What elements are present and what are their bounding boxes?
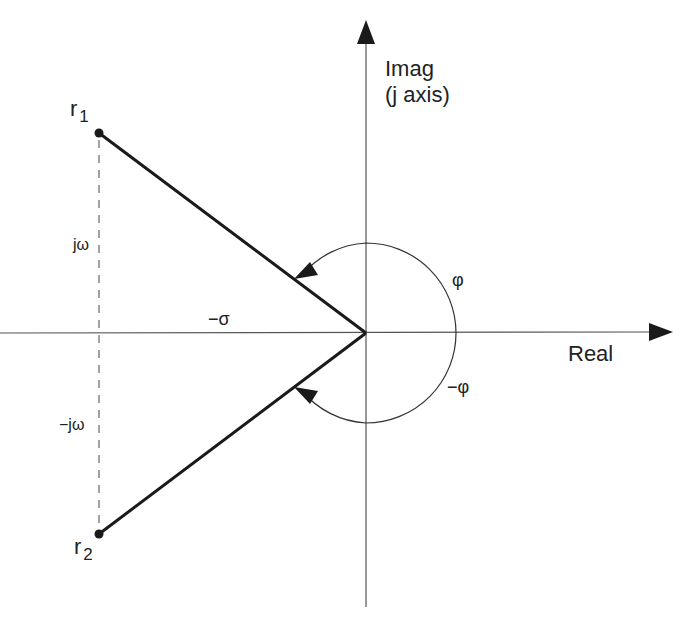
neg-phi-arc-arrow-icon [294,387,318,404]
phi-arc [302,243,456,333]
imag-axis-arrow-icon [357,20,375,44]
neg-phi-label: −φ [447,378,469,396]
r2-label-base: r [74,534,81,559]
j-omega-label: jω [73,237,89,253]
neg-sigma-label: −σ [208,310,230,328]
ray-to-r1 [99,133,366,333]
phi-arc-arrow-icon [294,262,318,279]
imag-axis-sublabel: (j axis) [385,84,450,106]
r2-label: r2 [74,536,93,563]
neg-phi-arc [302,333,456,423]
r2-label-subscript: 2 [83,545,92,564]
r1-label-base: r [70,96,77,121]
imag-axis-label: Imag [385,58,434,80]
r1-point [95,129,104,138]
real-axis-arrow-icon [649,323,673,341]
neg-j-omega-label: −jω [59,417,84,433]
r1-label-subscript: 1 [79,107,88,126]
r2-point [95,530,104,539]
ray-to-r2 [99,333,366,534]
real-axis-label: Real [568,343,613,365]
real-axis [0,332,652,333]
phi-label: φ [452,271,464,289]
r1-label: r1 [70,98,89,125]
complex-plane-diagram [0,0,686,618]
